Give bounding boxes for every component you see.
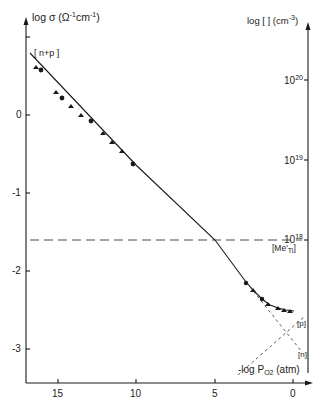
x-tick-label-15: 15 bbox=[52, 389, 63, 399]
circle-data-points bbox=[39, 68, 265, 302]
n-plus-p-label: [ n+p ] bbox=[34, 49, 59, 58]
y-right-title-end: ) bbox=[295, 15, 298, 26]
y-left-title-text: log σ (Ω bbox=[32, 11, 70, 23]
me-ti-label: [Me'Ti] bbox=[272, 244, 296, 254]
n-label: [n] bbox=[298, 351, 307, 359]
x-tick-label-5: 5 bbox=[212, 389, 218, 399]
right-axis-arrow-icon bbox=[306, 22, 311, 30]
p-label: [p] bbox=[297, 320, 306, 328]
y-left-tick-label-0: 0 bbox=[16, 110, 22, 120]
y-left-title-end: ) bbox=[96, 11, 100, 23]
y-left-tick-label-neg1: -1 bbox=[12, 188, 21, 198]
left-y-axis bbox=[24, 17, 31, 383]
y-right-tick-exp: 20 bbox=[295, 74, 303, 81]
n-dotted-line bbox=[246, 282, 302, 352]
chart-canvas bbox=[0, 0, 324, 405]
left-y-axis-title: log σ (Ω-1cm-1) bbox=[32, 11, 100, 23]
y-axis-arrow-icon bbox=[24, 17, 29, 25]
y-right-tick-exp: 18 bbox=[295, 233, 303, 240]
x-tick-label-0: 0 bbox=[290, 389, 296, 399]
x-axis-arrow-icon bbox=[305, 381, 313, 386]
x-title-end: (atm) bbox=[273, 364, 299, 375]
y-right-tick-base: 10 bbox=[284, 75, 295, 86]
y-right-tick-base: 10 bbox=[284, 234, 295, 245]
y-left-tick-label-neg2: -2 bbox=[12, 266, 21, 276]
y-right-tick-base: 10 bbox=[284, 155, 295, 166]
x-title-text: -log P bbox=[238, 364, 264, 375]
triangle-data-points bbox=[33, 65, 293, 313]
x-axis-title: -log PO2 (atm) bbox=[238, 365, 300, 376]
y-right-tick-label-1e20: 1020 bbox=[284, 74, 303, 86]
y-left-title-mid: cm bbox=[76, 11, 90, 23]
n-plus-p-curve bbox=[30, 53, 294, 311]
y-left-tick-label-neg3: -3 bbox=[12, 344, 21, 354]
y-right-tick-label-1e18: 1018 bbox=[284, 233, 303, 245]
y-right-tick-label-1e19: 1019 bbox=[284, 154, 303, 166]
x-tick-label-10: 10 bbox=[130, 389, 141, 399]
right-y-axis-title: log [ ] (cm-3) bbox=[247, 14, 298, 26]
y-right-tick-exp: 19 bbox=[295, 154, 303, 161]
y-right-title-text: log [ ] (cm bbox=[247, 15, 289, 26]
x-axis bbox=[26, 379, 313, 386]
